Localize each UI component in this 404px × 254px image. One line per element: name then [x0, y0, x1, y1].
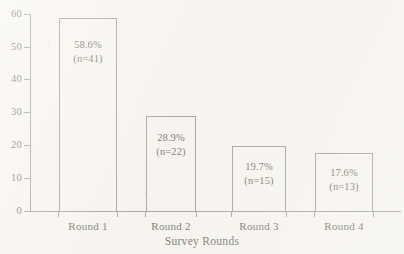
bar-label-round-1-pct: 58.6%	[59, 38, 117, 52]
bar-label-round-1-n: (n=41)	[59, 52, 117, 66]
bar-label-round-1: 58.6% (n=41)	[59, 38, 117, 65]
y-axis-label-60-wrap: 60	[0, 9, 22, 20]
y-axis-tick-30	[24, 112, 30, 113]
y-axis-line	[30, 14, 31, 212]
bar-label-round-2-n: (n=22)	[146, 145, 196, 159]
x-axis-category-label-1: Round 1	[48, 220, 128, 232]
y-axis-tick-40	[24, 79, 30, 80]
bar-label-round-4-pct: 17.6%	[315, 166, 373, 180]
y-axis-label-60: 60	[0, 9, 22, 20]
y-axis-tick-60	[24, 14, 30, 15]
y-axis-label-20-wrap: 20	[0, 140, 22, 151]
y-axis-label-50: 50	[0, 42, 22, 53]
x-axis-tick-8	[373, 211, 374, 217]
x-axis-category-label-3: Round 3	[219, 220, 299, 232]
y-axis-tick-50	[24, 47, 30, 48]
x-axis-tick-4	[196, 211, 197, 217]
y-axis-tick-10	[24, 178, 30, 179]
bar-label-round-2: 28.9% (n=22)	[146, 131, 196, 158]
y-axis-label-40: 40	[0, 74, 22, 85]
y-axis-label-20: 20	[0, 140, 22, 151]
x-axis-tick-2	[117, 211, 118, 217]
x-axis-category-label-2: Round 2	[131, 220, 211, 232]
y-axis-label-10-wrap: 10	[0, 173, 22, 184]
bar-label-round-4-n: (n=13)	[315, 180, 373, 194]
x-axis-tick-6	[286, 211, 287, 217]
y-axis-label-30-wrap: 30	[0, 107, 22, 118]
y-axis-tick-20	[24, 145, 30, 146]
bar-chart-figure: 60 50 40 30 20 10 0	[0, 0, 404, 254]
y-axis-label-30: 30	[0, 107, 22, 118]
x-axis-title: Survey Rounds	[0, 235, 404, 248]
bar-label-round-3-n: (n=15)	[232, 174, 286, 188]
y-axis-label-40-wrap: 40	[0, 74, 22, 85]
bar-label-round-4: 17.6% (n=13)	[315, 166, 373, 193]
x-axis-category-label-4: Round 4	[304, 220, 384, 232]
plot-area: 60 50 40 30 20 10 0	[0, 0, 404, 254]
y-axis-label-10: 10	[0, 173, 22, 184]
y-axis-label-0: 0	[0, 206, 22, 217]
bar-label-round-2-pct: 28.9%	[146, 131, 196, 145]
y-axis-label-50-wrap: 50	[0, 42, 22, 53]
y-axis-label-0-wrap: 0	[0, 206, 22, 217]
bar-label-round-3-pct: 19.7%	[232, 160, 286, 174]
bar-label-round-3: 19.7% (n=15)	[232, 160, 286, 187]
